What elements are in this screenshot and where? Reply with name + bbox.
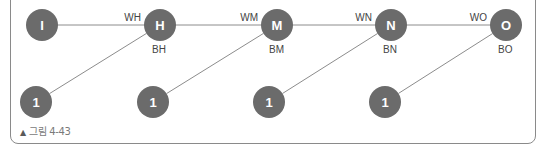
bias-edge-bh [50, 33, 147, 93]
bias-node-bias_n: 1 [253, 86, 285, 118]
weight-label: WO [470, 12, 487, 23]
neuron-node-o: O [490, 9, 522, 41]
neuron-node-h: H [144, 9, 176, 41]
bias-node-bias_m: 1 [137, 86, 169, 118]
figure-caption: ▲그림 4-43 [20, 123, 71, 138]
bias-label: BH [152, 44, 166, 55]
node-label: 1 [149, 95, 156, 110]
triangle-marker-icon: ▲ [20, 128, 26, 137]
node-label: I [40, 18, 44, 33]
node-label: 1 [381, 95, 388, 110]
bias-node-bias_h: 1 [20, 86, 52, 118]
bias-edge-bm [167, 33, 264, 93]
weight-label: WM [240, 12, 258, 23]
bias-edge-bo [398, 34, 492, 94]
weight-label: WH [124, 12, 141, 23]
bias-node-bias_o: 1 [369, 86, 401, 118]
bias-label: BM [269, 44, 284, 55]
caption-text: 그림 4-43 [29, 126, 71, 137]
network-diagram: IHMNO1111 WHWMWNWOBHBMBNBO [0, 0, 542, 149]
bias-edge-bn [283, 34, 378, 94]
bias-label: BN [383, 44, 397, 55]
neuron-node-i: I [26, 9, 58, 41]
node-label: H [155, 18, 164, 33]
node-label: 1 [32, 95, 39, 110]
node-label: M [272, 18, 283, 33]
node-label: N [386, 18, 395, 33]
neuron-node-m: M [261, 9, 293, 41]
neuron-node-n: N [375, 9, 407, 41]
weight-label: WN [355, 12, 372, 23]
bias-label: BO [498, 44, 513, 55]
node-label: 1 [265, 95, 272, 110]
node-label: O [501, 18, 511, 33]
